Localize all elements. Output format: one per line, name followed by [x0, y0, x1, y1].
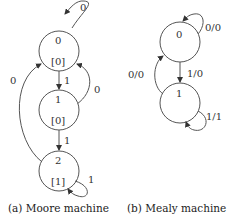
moore-state-0-output: [0] [51, 56, 65, 67]
moore-machine: 0 0 [0] 1 0 1 [0] 1 0 2 [1] 1 (a) Moore … [8, 1, 109, 214]
moore-state-0-id: 0 [55, 35, 61, 46]
moore-state-1-output: [0] [51, 115, 65, 126]
moore-edge-1-0-label: 0 [94, 84, 100, 95]
moore-edge-2-0-label: 0 [10, 75, 16, 86]
moore-edge-0-0-label: 0 [80, 2, 86, 13]
mealy-state-0-id: 0 [176, 29, 182, 40]
mealy-edge-0-1-label: 1/0 [187, 68, 203, 79]
moore-edge-1-2-label: 1 [64, 135, 70, 146]
moore-edge-2-0 [19, 64, 42, 162]
mealy-caption: (b) Mealy machine [127, 202, 226, 214]
mealy-edge-1-0-label: 0/0 [128, 69, 144, 80]
moore-state-2-id: 2 [55, 155, 61, 166]
moore-caption: (a) Moore machine [8, 202, 109, 214]
mealy-machine: 0/0 0 1/0 0/0 1 1/1 (b) Mealy machine [127, 14, 226, 214]
moore-state-1-id: 1 [55, 94, 61, 105]
mealy-state-0 [160, 22, 200, 62]
mealy-edge-0-0-label: 0/0 [205, 22, 221, 33]
mealy-state-1-id: 1 [176, 88, 182, 99]
mealy-edge-1-1-label: 1/1 [206, 111, 222, 122]
mealy-edge-1-0 [155, 56, 163, 94]
moore-edge-1-0 [77, 64, 90, 104]
moore-edge-2-2-label: 1 [88, 174, 94, 185]
moore-edge-0-1-label: 1 [64, 75, 70, 86]
moore-state-2-output: [1] [51, 176, 65, 187]
state-diagrams: 0 0 [0] 1 0 1 [0] 1 0 2 [1] 1 (a) Moore … [0, 0, 237, 219]
